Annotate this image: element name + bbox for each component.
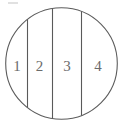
- region-label-3: 3: [63, 58, 71, 74]
- region-label-4: 4: [94, 58, 102, 74]
- circle-partition-diagram: 1 2 3 4: [0, 0, 125, 128]
- diagram-canvas: 1 2 3 4: [0, 0, 125, 128]
- top-left-smudge-artifact: [8, 2, 18, 4]
- region-label-2: 2: [36, 58, 44, 74]
- region-label-1: 1: [13, 58, 21, 74]
